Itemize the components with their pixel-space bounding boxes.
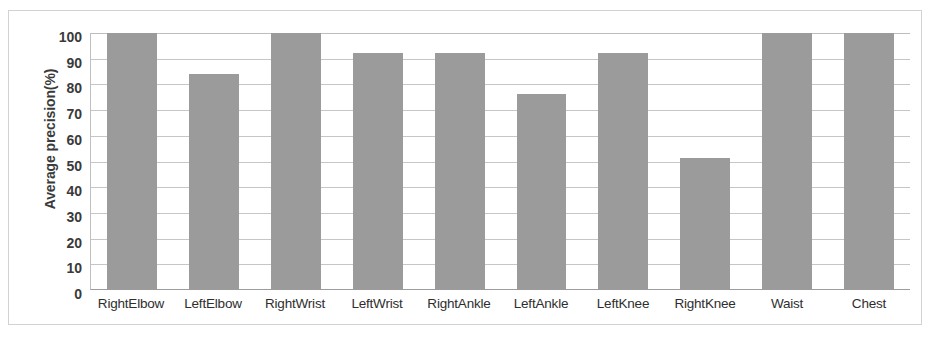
x-tick-label-rightelbow: RightElbow bbox=[90, 296, 172, 311]
bar bbox=[680, 158, 730, 289]
bar bbox=[517, 94, 567, 289]
bar-chart-figure: Average precision(%) 100 90 80 70 60 50 … bbox=[8, 10, 922, 325]
y-tick-label: 0 bbox=[39, 286, 82, 302]
y-tick-label: 20 bbox=[39, 235, 82, 251]
y-tick-label: 100 bbox=[39, 29, 82, 45]
y-tick-label: 50 bbox=[39, 158, 82, 174]
plot-area bbox=[90, 33, 910, 290]
bar bbox=[844, 33, 894, 289]
y-tick-label: 80 bbox=[39, 80, 82, 96]
x-tick-label-chest: Chest bbox=[828, 296, 910, 311]
x-tick-label-leftwrist: LeftWrist bbox=[336, 296, 418, 311]
bar-slot bbox=[501, 33, 583, 289]
bar-slot bbox=[173, 33, 255, 289]
x-tick-label-rightankle: RightAnkle bbox=[418, 296, 500, 311]
y-tick-label: 90 bbox=[39, 55, 82, 71]
x-axis-tick-labels: RightElbow LeftElbow RightWrist LeftWris… bbox=[90, 296, 910, 311]
bar-slot bbox=[828, 33, 910, 289]
x-tick-label-leftankle: LeftAnkle bbox=[500, 296, 582, 311]
bar bbox=[271, 33, 321, 289]
y-tick-label: 10 bbox=[39, 260, 82, 276]
bar-slot bbox=[91, 33, 173, 289]
y-tick-label: 30 bbox=[39, 209, 82, 225]
bar bbox=[762, 33, 812, 289]
x-tick-label-leftelbow: LeftElbow bbox=[172, 296, 254, 311]
x-tick-label-rightwrist: RightWrist bbox=[254, 296, 336, 311]
x-tick-label-waist: Waist bbox=[746, 296, 828, 311]
bar-slot bbox=[337, 33, 419, 289]
bar-slot bbox=[582, 33, 664, 289]
x-tick-label-leftknee: LeftKnee bbox=[582, 296, 664, 311]
bar bbox=[353, 53, 403, 289]
x-tick-label-rightknee: RightKnee bbox=[664, 296, 746, 311]
y-tick-label: 70 bbox=[39, 106, 82, 122]
bar bbox=[107, 33, 157, 289]
bar-slot bbox=[746, 33, 828, 289]
y-axis-tick-labels: 100 90 80 70 60 50 40 30 20 10 0 bbox=[39, 26, 82, 290]
y-tick-label: 40 bbox=[39, 183, 82, 199]
bar bbox=[598, 53, 648, 289]
bar-slot bbox=[419, 33, 501, 289]
bar-slot bbox=[664, 33, 746, 289]
bar bbox=[189, 74, 239, 289]
bars-layer bbox=[91, 33, 910, 289]
y-tick-label: 60 bbox=[39, 132, 82, 148]
bar bbox=[435, 53, 485, 289]
bar-slot bbox=[255, 33, 337, 289]
